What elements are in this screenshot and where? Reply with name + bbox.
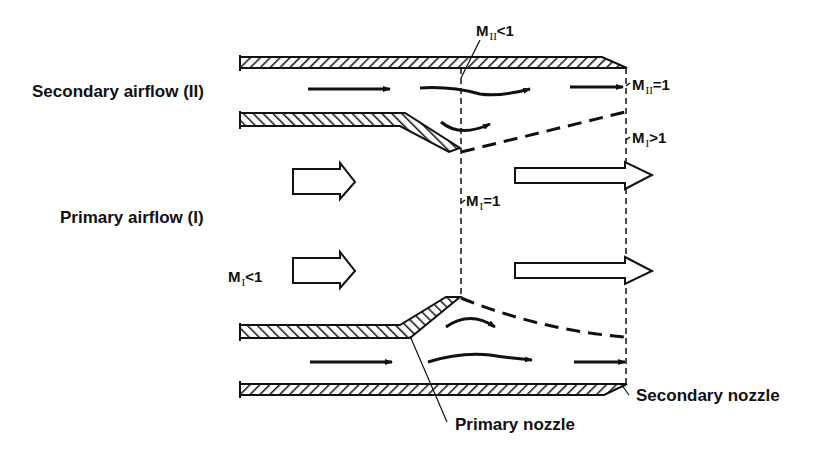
primary-nozzle-top-wall: [240, 111, 460, 152]
secondary-airflow-label: Secondary airflow (II): [32, 82, 204, 102]
primary-flow-hollow-arrows: [293, 162, 652, 288]
mach-label-secondary-subsonic: MII<1: [476, 22, 514, 42]
mach-label-primary-subsonic: MI<1: [228, 268, 262, 288]
mach-label-secondary-sonic: MII=1: [632, 76, 670, 96]
mach-label-primary-supersonic: MI>1: [632, 129, 666, 149]
primary-nozzle-bottom-wall: [240, 297, 460, 341]
outer-wall-top: [240, 55, 627, 71]
jet-boundary-lower: [461, 298, 625, 337]
secondary-nozzle-label: Secondary nozzle: [636, 386, 780, 406]
primary-airflow-label: Primary airflow (I): [60, 208, 204, 228]
leader-primary-nozzle: [410, 336, 447, 422]
mach-tick-marks: [461, 83, 630, 203]
primary-nozzle-label: Primary nozzle: [455, 415, 575, 435]
jet-boundary-upper: [461, 112, 625, 152]
mach-label-primary-sonic: MI=1: [466, 192, 500, 212]
